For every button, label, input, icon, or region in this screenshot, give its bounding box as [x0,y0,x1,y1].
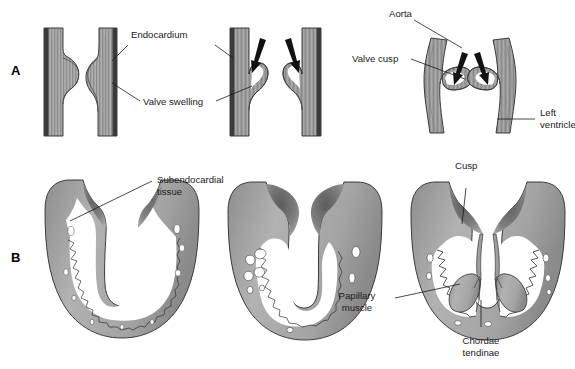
b2-lacuna [259,285,264,291]
label-valve-swelling: Valve swelling [143,96,203,107]
label-left-ventricle-line2: ventricle [540,119,575,130]
b2-lacuna [246,255,255,265]
b1-lacuna [175,270,181,276]
a2-endocardium-layer [113,28,118,136]
label-aorta: Aorta [389,8,413,19]
b2-lacuna [244,271,253,280]
b3-lacuna [543,254,549,262]
label-subendocardial-tissue-line2: tissue [157,186,182,197]
b1-lacuna [90,319,94,324]
b2-lacuna [254,267,264,277]
heart-valve-development-diagram: A [0,0,575,369]
label-papillary-muscle-line1: Papillary [339,290,376,301]
label-endocardium: Endocardium [131,29,188,40]
label-left-ventricle-line1: Left [540,107,556,118]
a1-endocardium-layer [44,28,49,136]
b1-lacuna [72,295,76,300]
label-chordae-tendinae-line1: Chordae [463,335,500,346]
a3-left-endocardium [230,28,235,136]
panel-a-letter: A [11,63,21,78]
b2-lacuna [287,327,293,332]
label-chordae-tendinae-line2: tendinae [463,347,500,358]
b2-lacuna [247,286,253,293]
b1-lacuna [64,269,69,275]
b3-lacuna [426,272,431,279]
b1-lacuna [68,226,74,235]
b3-lacuna [484,322,491,327]
b3-lacuna [455,321,462,326]
b2-lacuna [352,247,360,258]
b3-lacuna [545,275,550,282]
b1-lacuna [179,244,184,251]
label-cusp: Cusp [455,160,477,171]
b3-lacuna [547,289,551,295]
label-papillary-muscle-line2: muscle [342,302,372,313]
label-subendocardial-tissue-line1: Subendocardial [157,174,224,185]
b2-lacuna [349,273,355,283]
b1-lacuna [150,320,154,325]
b1-lacuna [120,325,124,330]
panel-b-letter: B [11,250,20,265]
a3-right-endocardium [317,28,322,136]
b3-lacuna [427,254,433,262]
label-valve-cusp: Valve cusp [352,53,398,64]
b1-lacuna [174,225,180,234]
figure-root: A [0,0,575,369]
